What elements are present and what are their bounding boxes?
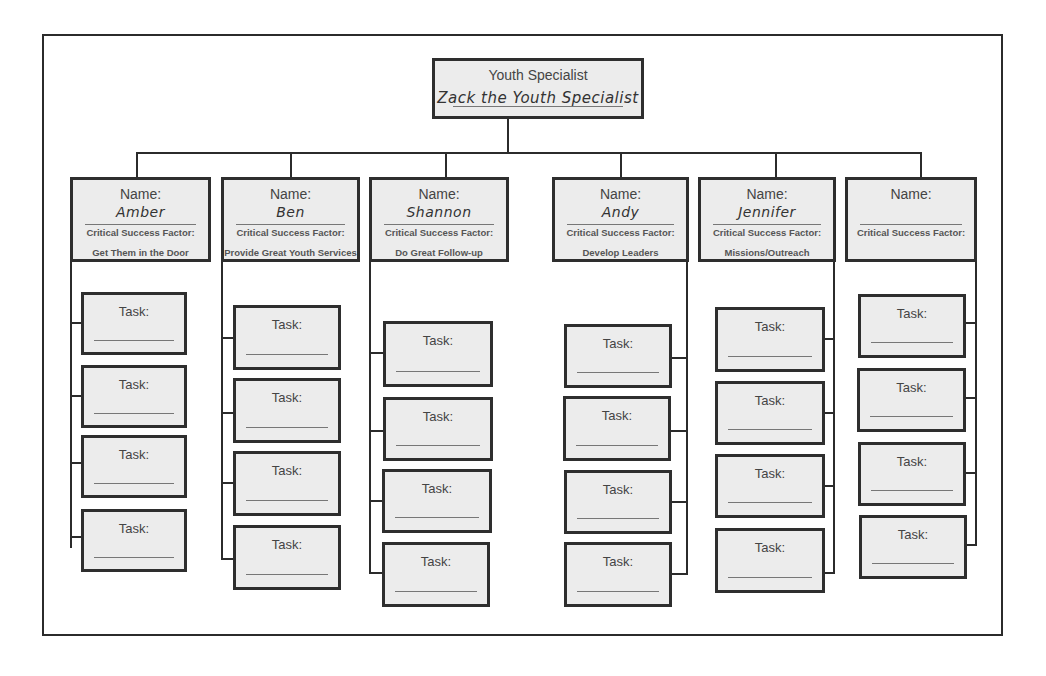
task-label: Task: [385,554,487,569]
task-box: Task: [564,324,672,388]
branch [369,352,384,354]
connector-horizontal [136,152,922,154]
connector-drop-ben [290,152,292,178]
task-box: Task: [715,454,825,518]
csf-value: Develop Leaders [555,247,686,258]
top-role-box: Youth Specialist Zack the Youth Speciali… [432,58,644,119]
csf-label: Critical Success Factor: [372,227,506,238]
trunk-shannon [369,262,371,574]
connector-drop-jennifer [775,152,777,178]
branch [965,397,977,399]
task-label: Task: [84,521,184,536]
task-label: Task: [718,319,822,334]
task-box: Task: [81,435,187,498]
branch [671,357,688,359]
task-underline [577,372,659,373]
task-box: Task: [81,509,187,572]
name-label: Name: [73,186,208,202]
task-box: Task: [233,305,341,370]
csf-value: Missions/Outreach [701,247,833,258]
branch [671,501,688,503]
name-label: Name: [848,186,974,202]
name-underline [384,224,494,225]
task-underline [728,502,812,503]
task-box: Task: [857,368,966,432]
name-label: Name: [224,186,357,202]
branch [965,322,977,324]
task-label: Task: [385,481,489,496]
task-label: Task: [860,380,963,395]
csf-label: Critical Success Factor: [701,227,833,238]
task-box: Task: [858,442,966,506]
branch [824,338,835,340]
top-role-name: Zack the Youth Specialist [435,89,641,107]
task-label: Task: [718,540,822,555]
person-name: Amber [73,202,208,222]
task-label: Task: [861,306,963,321]
trunk-blank [975,262,977,546]
branch [965,472,977,474]
task-underline [246,354,328,355]
task-underline [728,429,812,430]
task-underline [870,416,953,417]
person-box-jennifer: Name: Jennifer Critical Success Factor: … [698,177,836,262]
task-box: Task: [81,292,187,355]
branch [671,430,688,432]
person-name: Shannon [372,202,506,222]
task-underline [728,356,812,357]
person-name: Ben [224,202,357,222]
task-box: Task: [563,396,671,461]
task-underline [395,591,477,592]
name-underline [567,224,674,225]
task-underline [576,445,658,446]
csf-value: Provide Great Youth Services [224,247,357,258]
csf-label: Critical Success Factor: [555,227,686,238]
task-box: Task: [382,542,490,607]
task-label: Task: [236,390,338,405]
task-label: Task: [386,333,490,348]
task-box: Task: [233,378,341,443]
trunk-ben [221,262,223,560]
person-box-andy: Name: Andy Critical Success Factor: Deve… [552,177,689,262]
csf-label: Critical Success Factor: [224,227,357,238]
branch [369,430,384,432]
task-underline [577,591,659,592]
task-box: Task: [715,381,825,445]
task-label: Task: [84,377,184,392]
person-box-amber: Name: Amber Critical Success Factor: Get… [70,177,211,262]
name-label: Name: [555,186,686,202]
task-box: Task: [859,515,967,579]
person-box-blank: Name: Critical Success Factor: [845,177,977,262]
name-underline [713,224,821,225]
task-underline [872,563,954,564]
task-underline [94,557,174,558]
name-label: Name: [372,186,506,202]
connector-drop-shannon [445,152,447,178]
task-label: Task: [861,454,963,469]
task-label: Task: [567,482,669,497]
csf-value: Do Great Follow-up [372,247,506,258]
name-underline [236,224,345,225]
task-label: Task: [566,408,668,423]
name-underline [85,224,196,225]
csf-label: Critical Success Factor: [848,227,974,238]
trunk-jennifer [833,262,835,574]
task-underline [395,517,479,518]
person-name [848,202,974,222]
task-box: Task: [564,542,672,607]
task-label: Task: [236,463,338,478]
connector-top-drop [507,119,509,154]
task-underline [94,340,174,341]
top-name-underline [453,106,623,107]
csf-value: Get Them in the Door [73,247,208,258]
task-underline [94,413,174,414]
task-box: Task: [715,307,825,372]
task-underline [246,427,328,428]
branch [671,573,688,575]
connector-drop-blank [920,152,922,178]
name-label: Name: [701,186,833,202]
task-box: Task: [715,528,825,593]
task-box: Task: [382,469,492,533]
task-underline [871,490,953,491]
person-box-shannon: Name: Shannon Critical Success Factor: D… [369,177,509,262]
